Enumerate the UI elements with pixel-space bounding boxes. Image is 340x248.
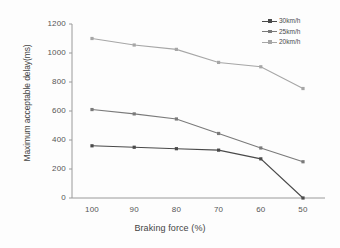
data-point-marker [133,112,136,115]
data-point-marker [217,61,220,64]
legend-marker [268,40,272,44]
y-axis-tick-label: 1000 [36,48,66,57]
data-point-marker [90,108,93,111]
data-point-marker [217,149,220,152]
data-point-marker [259,65,262,68]
legend-swatch-icon [262,39,277,45]
legend-marker [268,19,272,23]
data-point-marker [175,48,178,51]
x-axis-tick-label: 50 [291,205,315,214]
data-point-marker [301,196,304,199]
data-point-marker [259,146,262,149]
y-axis-tick-label: 1200 [36,19,66,28]
data-point-marker [175,147,178,150]
legend-label: 25km/h [279,28,300,36]
series-line-20kmh [92,39,303,89]
x-axis-tick-label: 100 [80,205,104,214]
legend-item-30kmh[interactable]: 30km/h [262,17,300,25]
legend-swatch-icon [262,29,277,35]
line-chart: 020040060080010001200 1009080706050 Maxi… [0,0,340,248]
legend-marker [268,30,272,34]
y-axis-title: Maximum acceptable delay(ms) [22,28,32,178]
y-axis-tick-label: 200 [36,164,66,173]
y-axis-tick-label: 800 [36,77,66,86]
x-axis-tick-label: 80 [164,205,188,214]
x-axis-tick-label: 60 [249,205,273,214]
data-point-marker [259,157,262,160]
legend-label: 30km/h [279,17,300,25]
x-axis-tick-label: 90 [122,205,146,214]
x-axis-tick-label: 70 [207,205,231,214]
data-point-marker [301,160,304,163]
data-point-marker [90,37,93,40]
legend-swatch-icon [262,18,277,24]
data-point-marker [133,43,136,46]
legend-label: 20km/h [279,38,300,46]
y-axis-tick-label: 600 [36,106,66,115]
data-point-marker [175,117,178,120]
data-point-marker [90,144,93,147]
series-line-25kmh [92,110,303,162]
data-point-marker [133,146,136,149]
x-axis-title: Braking force (%) [0,223,340,233]
series-line-30kmh [92,146,303,198]
y-axis-tick-label: 400 [36,135,66,144]
legend-item-20kmh[interactable]: 20km/h [262,38,300,46]
data-point-marker [217,132,220,135]
series-layer [90,37,304,200]
data-point-marker [301,87,304,90]
y-axis-tick-label: 0 [36,193,66,202]
legend-item-25kmh[interactable]: 25km/h [262,28,300,36]
chart-legend: 30km/h25km/h20km/h [262,17,300,46]
